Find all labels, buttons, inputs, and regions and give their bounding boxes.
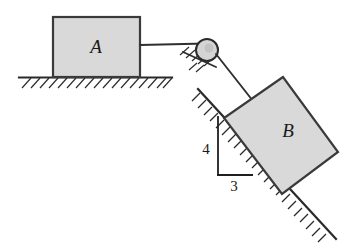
physics-figure-container: A — [0, 0, 351, 251]
physics-diagram: A — [0, 0, 351, 251]
block-a-label: A — [88, 36, 102, 57]
cord-segment-to-block-b — [216, 54, 253, 101]
pulley-hub — [205, 44, 214, 53]
ground-hatching — [22, 78, 172, 88]
rise-label: 4 — [202, 141, 210, 157]
block-b — [224, 77, 338, 194]
cord-segment-horizontal — [140, 44, 206, 46]
block-b-label: B — [282, 120, 294, 141]
run-label: 3 — [230, 178, 238, 194]
